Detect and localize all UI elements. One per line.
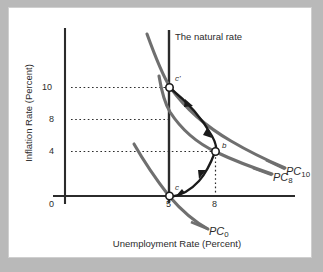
y-tick-label-10: 10 — [42, 83, 52, 92]
curve-label-pc0: PC0 — [209, 226, 229, 239]
y-tick-label-8: 8 — [49, 115, 54, 124]
adjustment-path — [170, 88, 216, 197]
curve-label-pc0-base: PC — [209, 225, 224, 237]
curve-label-pc8-base: PC — [273, 171, 288, 183]
figure-root: 10 8 4 0 5 8 c' b c The natural rate PC1… — [0, 0, 323, 272]
figure-panel: 10 8 4 0 5 8 c' b c The natural rate PC1… — [9, 8, 311, 257]
phillips-curve-chart — [9, 8, 311, 257]
leader-line-pc10 — [266, 160, 285, 169]
y-axis-title: Inflation Rate (Percent) — [23, 64, 34, 162]
curve-label-pc10-sub: 10 — [301, 170, 310, 179]
path-arrow-1 — [184, 99, 193, 107]
natural-rate-annotation: The natural rate — [175, 32, 242, 42]
curve-pc8 — [159, 76, 272, 174]
curve-label-pc8: PC8 — [273, 172, 293, 185]
point-label-c: c — [175, 184, 179, 192]
y-tick-label-4: 4 — [49, 147, 54, 156]
x-tick-label-8: 8 — [212, 200, 217, 209]
point-marker-b — [212, 148, 219, 155]
curve-pc0 — [134, 144, 208, 229]
point-marker-c-prime — [166, 84, 173, 91]
x-axis-title: Unemployment Rate (Percent) — [87, 239, 267, 249]
curve-label-pc8-sub: 8 — [288, 176, 292, 185]
point-label-b: b — [222, 142, 226, 150]
point-label-c-prime: c' — [175, 75, 181, 83]
y-tick-label-0: 0 — [49, 200, 54, 209]
x-tick-label-5: 5 — [166, 200, 171, 209]
y-axis-title-wrap: Inflation Rate (Percent) — [18, 53, 36, 173]
